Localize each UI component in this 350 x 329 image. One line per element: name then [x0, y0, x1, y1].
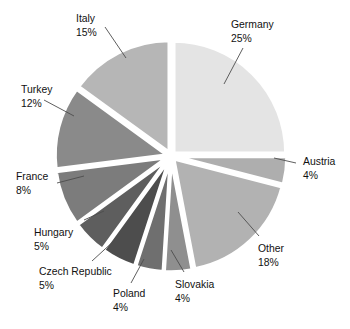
slice-label-slovakia: Slovakia — [175, 279, 214, 290]
slice-pct-hungary: 5% — [34, 241, 49, 252]
slice-label-poland: Poland — [113, 288, 146, 299]
slice-pct-austria: 4% — [303, 170, 318, 181]
slice-label-other: Other — [258, 243, 285, 254]
slice-pct-poland: 4% — [113, 302, 128, 313]
pie-slice-germany[interactable] — [174, 41, 286, 153]
slice-label-austria: Austria — [303, 156, 336, 167]
slice-label-france: France — [16, 171, 49, 182]
bottom-clipped-strip — [0, 320, 350, 329]
slice-label-turkey: Turkey — [21, 84, 53, 95]
slice-label-hungary: Hungary — [34, 227, 74, 238]
slice-pct-germany: 25% — [231, 33, 252, 44]
slice-label-italy: Italy — [76, 13, 96, 24]
slice-pct-other: 18% — [258, 257, 279, 268]
slice-pct-italy: 15% — [76, 27, 97, 38]
slice-pct-czech: 5% — [39, 280, 54, 291]
slice-label-czech: Czech Republic — [39, 266, 112, 277]
slice-pct-france: 8% — [16, 185, 31, 196]
pie-chart-figure: Germany 25% Austria 4% Other 18% Slovaki… — [0, 0, 350, 329]
slice-pct-turkey: 12% — [21, 98, 42, 109]
slice-pct-slovakia: 4% — [175, 293, 190, 304]
slice-label-germany: Germany — [231, 19, 275, 30]
pie-chart-svg: Germany 25% Austria 4% Other 18% Slovaki… — [0, 0, 350, 329]
pie-slices-group — [55, 40, 287, 272]
